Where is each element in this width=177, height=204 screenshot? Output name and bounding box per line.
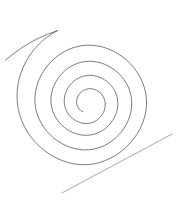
- figure-canvas: [0, 0, 177, 204]
- spiral-figure-svg: [0, 0, 177, 204]
- figure-background: [0, 0, 177, 204]
